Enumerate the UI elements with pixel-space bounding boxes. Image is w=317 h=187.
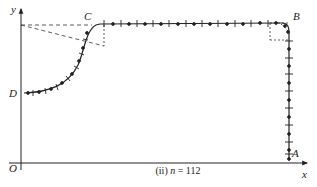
- caption: (ii) n = 112: [156, 165, 201, 177]
- caption-value: = 112: [175, 165, 200, 176]
- point-label-d: D: [8, 87, 17, 99]
- x-axis-label: x: [301, 168, 307, 180]
- point-label-b: B: [293, 10, 300, 22]
- curve-path: [24, 23, 289, 160]
- y-axis-label: y: [10, 3, 16, 15]
- diagram-canvas: y x O D C B A (ii) n = 112: [0, 0, 317, 187]
- construction-lines: [21, 23, 290, 46]
- point-label-c: C: [84, 10, 92, 22]
- origin-label: O: [9, 162, 17, 174]
- path-markers: [27, 20, 293, 160]
- point-label-a: A: [291, 147, 299, 159]
- caption-prefix: (ii): [156, 165, 171, 177]
